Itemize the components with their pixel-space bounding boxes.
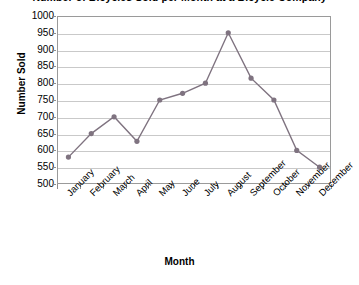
y-axis-tick-mark <box>52 167 56 168</box>
y-axis-tick-label: 900 <box>6 45 54 55</box>
series-number-sold <box>57 16 331 184</box>
series-line <box>68 33 319 167</box>
y-axis-tick-label: 800 <box>6 78 54 88</box>
data-point <box>180 91 185 96</box>
chart-title: Number of Bicycles Sold per Month at a B… <box>0 0 359 3</box>
y-axis-tick-label: 1000 <box>6 11 54 21</box>
y-axis-tick-mark <box>52 33 56 34</box>
y-axis-tick-label: 700 <box>6 112 54 122</box>
y-axis-tick-label: 500 <box>6 179 54 189</box>
line-chart: Number of Bicycles Sold per Month at a B… <box>0 0 359 285</box>
data-point <box>271 97 276 102</box>
y-axis-tick-mark <box>52 117 56 118</box>
x-axis-title: Month <box>0 256 359 267</box>
y-axis-tick-mark <box>52 134 56 135</box>
series-markers <box>66 30 322 170</box>
data-point <box>157 97 162 102</box>
y-axis-tick-mark <box>52 16 56 17</box>
data-point <box>89 131 94 136</box>
y-axis-tick-mark <box>52 184 56 185</box>
data-point <box>226 30 231 35</box>
y-axis-tick-label: 950 <box>6 28 54 38</box>
y-axis-title: Number Sold <box>16 39 27 129</box>
y-axis-tick-label: 650 <box>6 129 54 139</box>
y-axis-tick-label: 600 <box>6 145 54 155</box>
y-axis-tick-mark <box>52 100 56 101</box>
x-axis-tick-mark <box>57 184 58 189</box>
y-axis-tick-label: 750 <box>6 95 54 105</box>
y-axis-tick-mark <box>52 150 56 151</box>
data-point <box>294 148 299 153</box>
data-point <box>203 81 208 86</box>
data-point <box>66 155 71 160</box>
y-axis-tick-mark <box>52 66 56 67</box>
y-axis-tick-label: 550 <box>6 162 54 172</box>
y-axis-tick-mark <box>52 50 56 51</box>
data-point <box>111 114 116 119</box>
y-axis-tick-label: 850 <box>6 61 54 71</box>
y-axis-tick-mark <box>52 83 56 84</box>
data-point <box>248 76 253 81</box>
data-point <box>134 139 139 144</box>
